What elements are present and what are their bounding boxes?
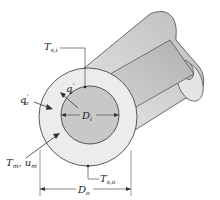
annulus-diagram: Ts,i q″i q″o Di Tm, um Ts,o Do bbox=[0, 0, 220, 200]
qo-label: q″o bbox=[20, 93, 29, 106]
t-si-label: Ts,i bbox=[44, 41, 58, 53]
tm-um-label: Tm, um bbox=[6, 157, 37, 169]
t-so-leader bbox=[88, 166, 99, 179]
t-so-label: Ts,o bbox=[100, 173, 116, 185]
